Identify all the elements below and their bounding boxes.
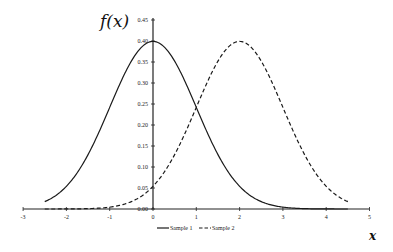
y-axis: 0.000.050.100.150.200.250.300.350.400.45 [138,17,156,212]
normal-distribution-chart: -3-2-1012345 0.000.050.100.150.200.250.3… [0,0,393,252]
series-line-sample-2 [45,41,348,209]
y-tick-label: 0.45 [138,17,149,23]
x-tick-label: 4 [325,214,328,220]
y-tick-label: 0.25 [138,101,149,107]
y-tick-label: 0.05 [138,185,149,191]
x-tick-label: -1 [107,214,112,220]
y-axis-title: f(x) [98,11,129,31]
x-tick-label: -3 [21,214,26,220]
x-tick-label: 3 [281,214,284,220]
x-tick-label: 0 [152,214,155,220]
x-tick-label: 2 [238,214,241,220]
y-tick-label: 0.30 [138,80,149,86]
y-tick-label: 0.10 [138,164,149,170]
legend: Sample 1Sample 2 [157,225,235,231]
y-tick-label: 0.20 [138,122,149,128]
x-axis-title: x [368,229,377,243]
y-tick-label: 0.15 [138,143,149,149]
legend-label-1: Sample 1 [170,225,193,231]
x-tick-label: -2 [64,214,69,220]
y-tick-label: 0.00 [138,206,149,212]
x-tick-label: 5 [368,214,371,220]
legend-label-2: Sample 2 [212,225,235,231]
y-tick-label: 0.35 [138,59,149,65]
series-line-sample-1 [45,41,348,209]
series-group [45,41,348,209]
x-tick-label: 1 [195,214,198,220]
